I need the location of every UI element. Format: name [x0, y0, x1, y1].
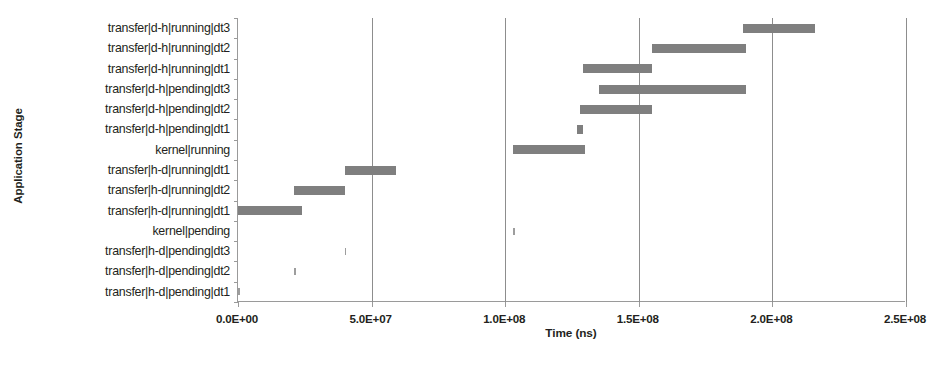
x-axis-tick-label: 5.0E+07: [326, 312, 416, 325]
y-axis-tick-labels: transfer|d-h|running|dt3transfer|d-h|run…: [12, 18, 234, 302]
y-axis-tick-mark: [234, 221, 238, 222]
y-axis-tick-label: transfer|h-d|running|dt1: [108, 160, 230, 180]
gantt-bar: [294, 186, 345, 195]
gantt-bar: [652, 44, 746, 53]
gantt-bar: [599, 85, 746, 94]
x-axis-tick-mark: [238, 302, 239, 307]
y-axis-tick-label: transfer|h-d|running|dt2: [108, 180, 230, 200]
y-axis-tick-mark: [234, 201, 238, 202]
x-axis-tick-label: 0.0E+00: [192, 312, 282, 325]
y-axis-tick-label: transfer|d-h|pending|dt3: [105, 79, 230, 99]
gantt-bar: [513, 228, 515, 235]
x-axis-tick-mark: [772, 302, 773, 307]
y-axis-tick-label: transfer|d-h|pending|dt2: [105, 99, 230, 119]
y-axis-tick-label: transfer|h-d|pending|dt2: [105, 261, 230, 281]
gantt-bar: [238, 206, 302, 215]
gantt-bar: [294, 268, 296, 275]
x-axis-title: Time (ns): [237, 326, 905, 340]
y-axis-tick-mark: [234, 261, 238, 262]
y-axis-tick-mark: [234, 99, 238, 100]
gridline: [639, 18, 640, 302]
gridline: [906, 18, 907, 302]
y-axis-tick-mark: [234, 282, 238, 283]
x-axis-tick-mark: [639, 302, 640, 307]
gantt-bar: [345, 166, 396, 175]
y-axis-tick-mark: [234, 119, 238, 120]
x-axis-tick-mark: [505, 302, 506, 307]
gridline: [772, 18, 773, 302]
y-axis-tick-label: transfer|d-h|running|dt3: [108, 18, 230, 38]
y-axis-tick-mark: [234, 140, 238, 141]
y-axis-tick-mark: [234, 38, 238, 39]
gantt-bar: [238, 288, 240, 295]
y-axis-tick-label: kernel|pending: [152, 221, 230, 241]
x-axis-tick-label: 1.0E+08: [459, 312, 549, 325]
x-axis-tick-label: 2.0E+08: [726, 312, 816, 325]
gantt-bar: [577, 125, 582, 134]
x-axis-tick-label: 1.5E+08: [593, 312, 683, 325]
y-axis-tick-label: transfer|h-d|running|dt1: [108, 201, 230, 221]
y-axis-tick-mark: [234, 79, 238, 80]
y-axis-tick-label: transfer|h-d|pending|dt3: [105, 241, 230, 261]
y-axis-tick-label: transfer|h-d|pending|dt1: [105, 282, 230, 302]
y-axis-tick-label: kernel|running: [155, 140, 230, 160]
gantt-bar: [345, 248, 347, 255]
gridline: [372, 18, 373, 302]
gantt-bar: [580, 105, 652, 114]
x-axis-tick-mark: [906, 302, 907, 307]
gantt-bar: [743, 24, 815, 33]
gantt-bar: [583, 64, 652, 73]
y-axis-tick-mark: [234, 18, 238, 19]
x-axis-tick-mark: [372, 302, 373, 307]
gantt-bar: [513, 145, 585, 154]
y-axis-tick-mark: [234, 59, 238, 60]
y-axis-tick-mark: [234, 241, 238, 242]
gridline: [505, 18, 506, 302]
plot-area: [237, 18, 905, 302]
x-axis-tick-label: 2.5E+08: [860, 312, 947, 325]
y-axis-tick-mark: [234, 160, 238, 161]
y-axis-tick-mark: [234, 180, 238, 181]
y-axis-tick-label: transfer|d-h|running|dt1: [108, 59, 230, 79]
gantt-chart: Application Stage transfer|d-h|running|d…: [0, 0, 947, 374]
y-axis-tick-label: transfer|d-h|pending|dt1: [105, 119, 230, 139]
y-axis-tick-label: transfer|d-h|running|dt2: [108, 38, 230, 58]
